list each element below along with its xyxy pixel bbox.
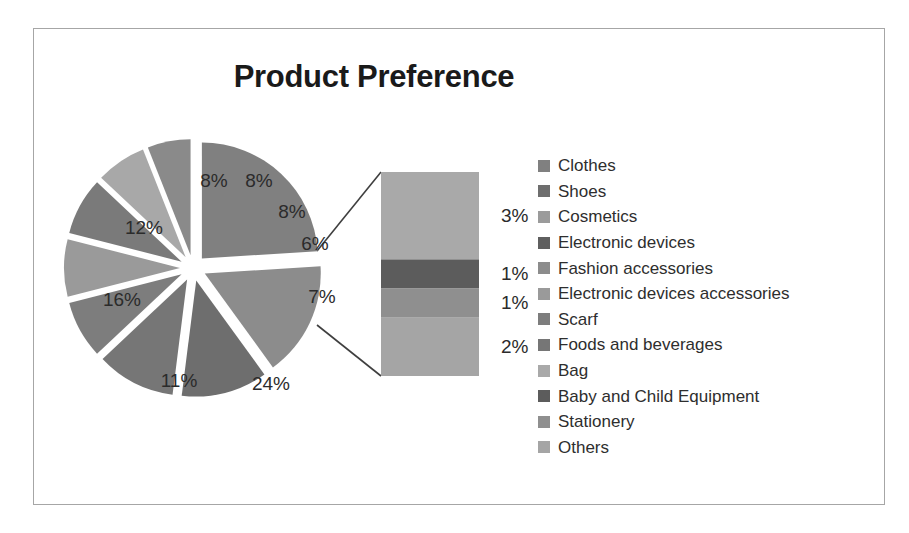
legend-item-label: Foods and beverages [558,336,722,353]
legend-swatch-icon [538,288,550,300]
legend-item[interactable]: Stationery [538,409,868,435]
chart-legend: ClothesShoesCosmeticsElectronic devicesF… [538,153,868,460]
bar-segment-label: 1% [501,263,528,285]
legend-item[interactable]: Scarf [538,307,868,333]
legend-swatch-icon [538,365,550,377]
legend-item-label: Electronic devices accessories [558,285,789,302]
legend-swatch-icon [538,339,550,351]
legend-swatch-icon [538,211,550,223]
pie-slice-label: 7% [308,286,335,308]
legend-item-label: Clothes [558,157,616,174]
legend-swatch-icon [538,185,550,197]
legend-item[interactable]: Shoes [538,179,868,205]
pie-slice-label: 8% [278,201,305,223]
legend-item[interactable]: Others [538,435,868,461]
connector-lines [317,172,381,376]
legend-item[interactable]: Bag [538,358,868,384]
bar-segment [381,172,479,259]
legend-item-label: Fashion accessories [558,260,713,277]
legend-item-label: Cosmetics [558,208,637,225]
bar-segment [381,318,479,376]
legend-item-label: Others [558,439,609,456]
legend-item-label: Bag [558,362,588,379]
pie-slice-label: 8% [245,170,272,192]
pie-slice-label: 16% [103,289,141,311]
legend-item[interactable]: Electronic devices accessories [538,281,868,307]
legend-item-label: Shoes [558,183,606,200]
legend-item-label: Stationery [558,413,635,430]
legend-item[interactable]: Clothes [538,153,868,179]
legend-item[interactable]: Cosmetics [538,204,868,230]
pie-slice-label: 24% [252,373,290,395]
legend-item[interactable]: Electronic devices [538,230,868,256]
legend-swatch-icon [538,416,550,428]
pie-slice-label: 11% [161,370,198,392]
legend-swatch-icon [538,160,550,172]
pie-slice-label: 6% [301,233,328,255]
bar-segment [381,259,479,288]
legend-swatch-icon [538,237,550,249]
legend-swatch-icon [538,441,550,453]
legend-item[interactable]: Foods and beverages [538,332,868,358]
pie-slice-label: 8% [200,170,227,192]
bar-segment-label: 2% [501,336,528,358]
legend-item-label: Scarf [558,311,598,328]
legend-item-label: Electronic devices [558,234,695,251]
legend-swatch-icon [538,390,550,402]
legend-swatch-icon [538,313,550,325]
pie-slice-label: 12% [125,217,163,239]
bar-segment-label: 1% [501,292,528,314]
bar-segment-label: 3% [501,205,528,227]
chart-frame: Product Preference 24%16%12%11%8%8%8%7%6… [33,28,885,505]
bar-segment [381,289,479,318]
legend-item[interactable]: Baby and Child Equipment [538,383,868,409]
legend-item-label: Baby and Child Equipment [558,388,759,405]
pie-slices [64,139,321,396]
stacked-bar [381,172,479,376]
legend-item[interactable]: Fashion accessories [538,255,868,281]
legend-swatch-icon [538,262,550,274]
